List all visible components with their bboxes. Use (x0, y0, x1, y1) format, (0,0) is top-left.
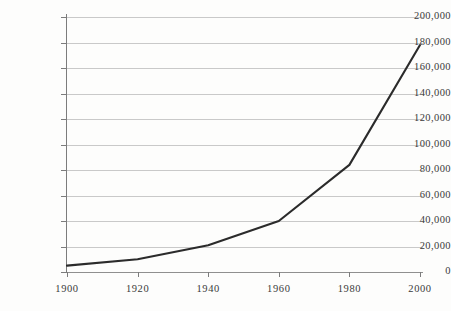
gridline (67, 170, 423, 171)
y-axis-tick-mark (61, 43, 66, 44)
chart-title (0, 0, 1, 1)
y-axis-tick-label: 200,000 (389, 10, 451, 21)
y-axis-tick-mark (61, 170, 66, 171)
y-axis-tick-label: 100,000 (389, 138, 451, 149)
y-axis-tick-label: 140,000 (389, 87, 451, 98)
y-axis-tick-label: 160,000 (389, 61, 451, 72)
y-axis-tick-label: 120,000 (389, 112, 451, 123)
gridline (67, 43, 423, 44)
gridline (67, 196, 423, 197)
y-axis-tick-label: 60,000 (389, 189, 451, 200)
gridline (67, 272, 423, 273)
gridline (67, 17, 423, 18)
y-axis-tick-label: 40,000 (389, 214, 451, 225)
x-axis-tick-mark (349, 272, 350, 277)
y-axis-tick-mark (61, 196, 66, 197)
gridline (67, 145, 423, 146)
x-axis-tick-label: 2000 (390, 283, 450, 294)
x-axis-tick-label: 1900 (37, 283, 97, 294)
x-axis-tick-label: 1940 (178, 283, 238, 294)
chart-x-axis-label (0, 0, 1, 1)
y-axis-tick-mark (61, 272, 66, 273)
gridline (67, 94, 423, 95)
x-axis-tick-mark (67, 272, 68, 277)
gridline (67, 247, 423, 248)
y-axis-tick-mark (61, 68, 66, 69)
y-axis-tick-mark (61, 247, 66, 248)
y-axis-tick-mark (61, 94, 66, 95)
y-axis-tick-mark (61, 119, 66, 120)
y-axis-tick-mark (61, 221, 66, 222)
x-axis-tick-mark (420, 272, 421, 277)
x-axis-tick-mark (208, 272, 209, 277)
y-axis-tick-label: 80,000 (389, 163, 451, 174)
plot-area (67, 17, 423, 272)
x-axis-tick-label: 1960 (249, 283, 309, 294)
x-axis-tick-label: 1980 (319, 283, 379, 294)
y-axis-tick-mark (61, 17, 66, 18)
gridline (67, 221, 423, 222)
x-axis-tick-label: 1920 (108, 283, 168, 294)
gridline (67, 119, 423, 120)
chart-y-axis-label (0, 0, 1, 1)
y-axis-tick-mark (61, 145, 66, 146)
line-chart-figure: 020,00040,00060,00080,000100,000120,0001… (0, 0, 451, 311)
x-axis-tick-mark (138, 272, 139, 277)
gridline (67, 68, 423, 69)
x-axis-tick-mark (279, 272, 280, 277)
y-axis-tick-label: 20,000 (389, 240, 451, 251)
y-axis-tick-label: 180,000 (389, 36, 451, 47)
